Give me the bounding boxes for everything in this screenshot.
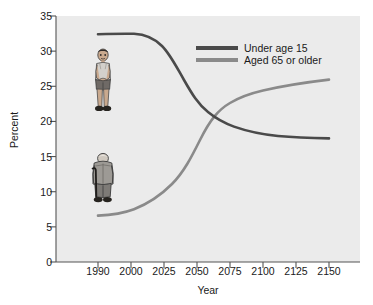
elderly-illustration-icon [86, 150, 120, 208]
chart-legend: Under age 15 Aged 65 or older [196, 42, 346, 66]
chart-figure: 0 5 10 15 20 25 30 35 1990 2000 2025 205… [0, 0, 373, 305]
legend-label-aged-65-or-older: Aged 65 or older [244, 54, 322, 66]
legend-swatch-icon-aged-65-or-older [196, 58, 238, 62]
y-tick-label-10: 10 [12, 187, 52, 197]
legend-item-aged-65-or-older: Aged 65 or older [196, 54, 346, 66]
y-tick-label-30: 30 [12, 46, 52, 56]
legend-label-under-age-15: Under age 15 [244, 42, 308, 54]
legend-item-under-age-15: Under age 15 [196, 42, 346, 54]
y-tick-label-35: 35 [12, 11, 52, 21]
x-tick-label-2150: 2150 [307, 266, 351, 277]
y-tick-label-5: 5 [12, 222, 52, 232]
y-tick-label-0: 0 [12, 257, 52, 267]
y-axis-title: Percent [8, 100, 20, 160]
legend-swatch-icon-under-age-15 [196, 46, 238, 50]
child-illustration-icon [87, 46, 119, 118]
x-axis-title: Year [56, 284, 360, 296]
y-tick-label-25: 25 [12, 81, 52, 91]
